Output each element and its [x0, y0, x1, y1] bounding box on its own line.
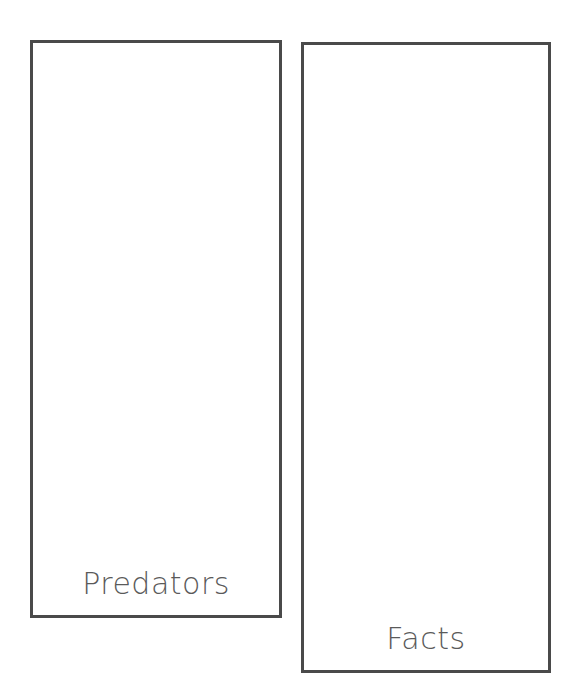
facts-panel: Facts: [301, 42, 551, 673]
predators-label: Predators: [33, 569, 279, 599]
facts-label: Facts: [304, 624, 548, 654]
predators-panel: Predators: [30, 40, 282, 618]
